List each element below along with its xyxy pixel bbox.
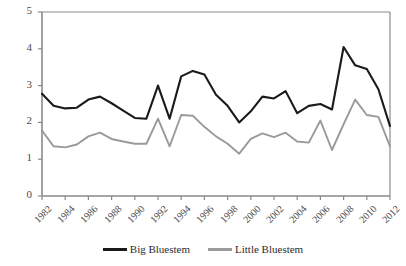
axes (38, 12, 390, 200)
legend-item-big-bluestem: Big Bluestem (103, 243, 190, 255)
plot-area (0, 0, 406, 266)
chart-figure: Flowering Stalk Height (feet) 012345 198… (0, 0, 406, 266)
legend-swatch-icon (103, 248, 127, 251)
series-line-little-bluestem (42, 100, 390, 154)
series-line-big-bluestem (42, 47, 390, 126)
chart-legend: Big BluestemLittle Bluestem (0, 243, 406, 255)
legend-swatch-icon (208, 248, 232, 251)
legend-label: Little Bluestem (235, 243, 303, 255)
legend-label: Big Bluestem (130, 243, 190, 255)
legend-item-little-bluestem: Little Bluestem (208, 243, 303, 255)
data-series (42, 47, 390, 154)
